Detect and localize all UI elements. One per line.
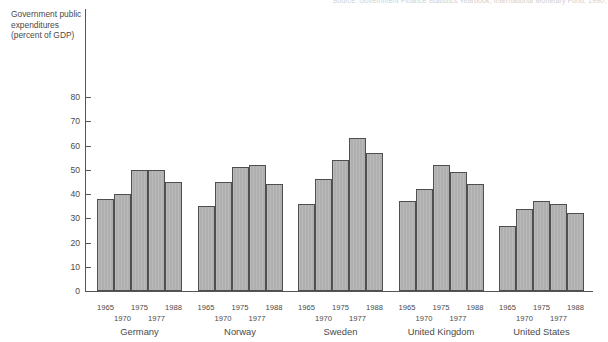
- y-axis-tick-label: 30: [54, 214, 80, 223]
- x-axis-year-label: 1970: [211, 314, 235, 324]
- bar[interactable]: [215, 182, 232, 291]
- bar[interactable]: [433, 165, 450, 291]
- bar[interactable]: [349, 138, 366, 291]
- x-axis-year-label: 1975: [530, 303, 554, 313]
- y-axis-tick: [86, 194, 91, 195]
- y-axis-tick-label: 10: [54, 263, 80, 272]
- x-axis-year-label: 1965: [295, 303, 319, 313]
- bar[interactable]: [416, 189, 433, 291]
- y-axis-tick-label: 20: [54, 239, 80, 248]
- y-axis-tick: [86, 170, 91, 171]
- x-axis-year-label: 1975: [329, 303, 353, 313]
- x-axis-year-label: 1965: [194, 303, 218, 313]
- x-axis-year-label: 1977: [547, 314, 571, 324]
- bar[interactable]: [97, 199, 114, 291]
- bar[interactable]: [366, 153, 383, 291]
- x-axis-year-label: 1965: [496, 303, 520, 313]
- source-note: Source: Government Finance Statistics Ye…: [232, 0, 606, 5]
- bar[interactable]: [148, 170, 165, 291]
- bar[interactable]: [298, 204, 315, 291]
- y-axis-tick-label: 0: [54, 287, 80, 296]
- bar-group: 19651975198819701977United Kingdom: [399, 9, 484, 342]
- y-axis-tick: [86, 146, 91, 147]
- year-label-row-lower: 19701977: [298, 314, 383, 324]
- year-label-row-upper: 196519751988: [97, 303, 182, 313]
- x-axis-year-label: 1970: [312, 314, 336, 324]
- year-label-row-upper: 196519751988: [298, 303, 383, 313]
- bar[interactable]: [249, 165, 266, 291]
- x-axis-country-label: Germany: [97, 326, 182, 338]
- y-axis-tick-label: 70: [54, 117, 80, 126]
- x-axis-year-label: 1988: [363, 303, 387, 313]
- y-axis-tick: [86, 121, 91, 122]
- bar[interactable]: [399, 201, 416, 291]
- x-axis-year-label: 1970: [513, 314, 537, 324]
- year-label-row-lower: 19701977: [97, 314, 182, 324]
- x-axis-year-label: 1975: [228, 303, 252, 313]
- x-axis-year-label: 1988: [162, 303, 186, 313]
- bar[interactable]: [450, 172, 467, 291]
- year-label-row-lower: 19701977: [198, 314, 283, 324]
- year-label-row-upper: 196519751988: [399, 303, 484, 313]
- y-axis-tick: [86, 243, 91, 244]
- bar-group: 19651975198819701977Sweden: [298, 9, 383, 342]
- y-axis-tick: [86, 97, 91, 98]
- x-axis-year-label: 1965: [94, 303, 118, 313]
- bar-group: 19651975198819701977Norway: [198, 9, 283, 342]
- x-axis-year-label: 1977: [245, 314, 269, 324]
- y-axis-tick-label: 60: [54, 142, 80, 151]
- y-axis-tick-label: 40: [54, 190, 80, 199]
- bar[interactable]: [533, 201, 550, 291]
- bar[interactable]: [567, 213, 584, 291]
- y-axis-tick: [86, 267, 91, 268]
- bar[interactable]: [198, 206, 215, 291]
- bar-chart-figure: Source: Government Finance Statistics Ye…: [0, 0, 608, 342]
- bar[interactable]: [131, 170, 148, 291]
- x-axis-year-label: 1975: [429, 303, 453, 313]
- bar[interactable]: [165, 182, 182, 291]
- bar[interactable]: [467, 184, 484, 291]
- bar-group-bars: [399, 9, 484, 291]
- year-label-row-upper: 196519751988: [198, 303, 283, 313]
- x-axis-country-label: Sweden: [298, 326, 383, 338]
- x-axis-year-label: 1977: [346, 314, 370, 324]
- y-axis-tick-label: 80: [54, 93, 80, 102]
- x-axis-year-label: 1965: [395, 303, 419, 313]
- year-label-row-lower: 19701977: [499, 314, 584, 324]
- bar-group: 19651975198819701977United States: [499, 9, 584, 342]
- x-axis-year-label: 1977: [446, 314, 470, 324]
- y-axis-tick: [86, 291, 91, 292]
- bar[interactable]: [550, 204, 567, 291]
- x-axis-year-label: 1970: [111, 314, 135, 324]
- bar[interactable]: [332, 160, 349, 291]
- y-axis-tick: [86, 218, 91, 219]
- bar-group-bars: [97, 9, 182, 291]
- bar[interactable]: [114, 194, 131, 291]
- bar-group-bars: [198, 9, 283, 291]
- x-axis-country-label: Norway: [198, 326, 283, 338]
- x-axis-country-label: United Kingdom: [399, 326, 484, 338]
- y-axis-tick-label: 50: [54, 166, 80, 175]
- bar[interactable]: [266, 184, 283, 291]
- year-label-row-upper: 196519751988: [499, 303, 584, 313]
- bar-group: 19651975198819701977Germany: [97, 9, 182, 342]
- x-axis-country-label: United States: [499, 326, 584, 338]
- x-axis-year-label: 1988: [262, 303, 286, 313]
- x-axis-year-label: 1975: [128, 303, 152, 313]
- bar-group-bars: [298, 9, 383, 291]
- y-axis-label: Government public expenditures (percent …: [11, 9, 85, 41]
- bar[interactable]: [516, 209, 533, 291]
- x-axis-year-label: 1977: [145, 314, 169, 324]
- x-axis-year-label: 1988: [564, 303, 588, 313]
- bar[interactable]: [232, 167, 249, 291]
- bar[interactable]: [499, 226, 516, 291]
- year-label-row-lower: 19701977: [399, 314, 484, 324]
- bar-group-bars: [499, 9, 584, 291]
- bar[interactable]: [315, 179, 332, 291]
- x-axis-year-label: 1988: [463, 303, 487, 313]
- y-axis-line: [85, 9, 86, 292]
- x-axis-year-label: 1970: [412, 314, 436, 324]
